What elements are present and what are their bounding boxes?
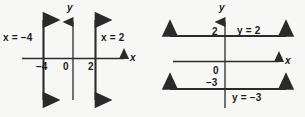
tick-label-0: 0 [63, 62, 69, 72]
tick-label-2: 2 [88, 62, 94, 72]
graph-vertical-lines: y x x = −4 x = 2 −4 0 2 [0, 0, 152, 117]
graph-right-canvas [153, 0, 305, 117]
label-x-equals-2: x = 2 [101, 33, 125, 43]
tick-label-0: 0 [213, 66, 219, 76]
label-y-equals-neg3: y = −3 [232, 93, 262, 103]
tick-label-neg3: −3 [206, 78, 217, 88]
figure-container: y x x = −4 x = 2 −4 0 2 [0, 0, 305, 117]
y-axis-label: y [219, 3, 225, 13]
label-y-equals-2: y = 2 [237, 26, 261, 36]
y-axis-label: y [67, 3, 73, 13]
x-axis-label: x [130, 53, 136, 63]
label-x-equals-neg4: x = −4 [3, 33, 33, 43]
tick-label-2: 2 [212, 27, 218, 37]
tick-label-neg4: −4 [36, 62, 47, 72]
x-axis-label: x [285, 56, 291, 66]
graph-horizontal-lines: y x y = 2 y = −3 2 0 −3 [153, 0, 305, 117]
